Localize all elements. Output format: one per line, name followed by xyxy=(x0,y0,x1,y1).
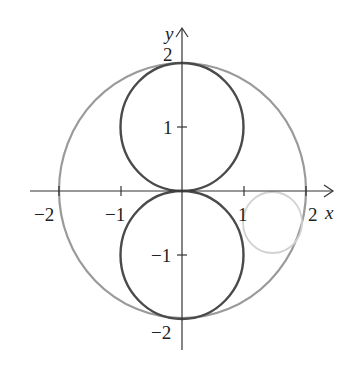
chart: −2 −1 1 2 2 1 −1 −2 x y xyxy=(0,0,358,367)
x-tick-label-2: 2 xyxy=(308,204,318,225)
y-axis-label: y xyxy=(163,23,174,44)
y-tick-label-m2: −2 xyxy=(151,322,171,343)
x-tick-label-m2: −2 xyxy=(34,204,54,225)
y-tick-label-2: 2 xyxy=(163,44,173,65)
rolling-circle xyxy=(243,192,302,253)
y-tick-label-m1: −1 xyxy=(151,245,171,266)
x-axis-label: x xyxy=(324,202,334,223)
x-tick-label-1: 1 xyxy=(238,204,248,225)
y-tick-label-1: 1 xyxy=(163,117,173,138)
x-tick-label-m1: −1 xyxy=(105,204,125,225)
